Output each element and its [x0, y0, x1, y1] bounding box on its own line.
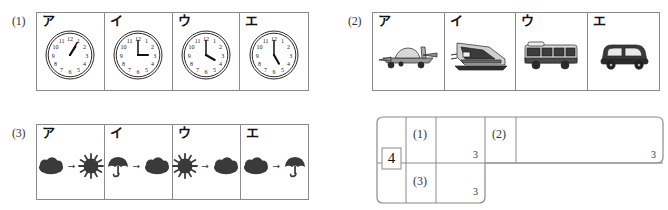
svg-text:9: 9	[188, 53, 191, 59]
choice-cell-q2-1[interactable]: ア	[373, 13, 445, 90]
svg-text:3: 3	[289, 53, 292, 59]
svg-text:10: 10	[121, 44, 127, 50]
sun-icon	[172, 153, 198, 179]
svg-text:3: 3	[221, 53, 224, 59]
clock-icon: 121234567891011	[109, 26, 167, 84]
weather-transition: →	[172, 153, 240, 179]
svg-text:10: 10	[53, 44, 59, 50]
svg-text:9: 9	[52, 53, 55, 59]
sun-icon	[78, 153, 104, 179]
question-number-box: 4	[382, 148, 401, 169]
svg-text:4: 4	[287, 61, 290, 67]
train-icon	[449, 35, 511, 79]
svg-text:1: 1	[145, 38, 148, 44]
clock-icon: 121234567891011	[41, 26, 99, 84]
answer-row-1-points: 3	[473, 149, 478, 160]
svg-text:6: 6	[69, 69, 72, 75]
choice-key-q2-1: ア	[378, 14, 391, 27]
clock-hour-hand	[274, 55, 279, 64]
question-3-choice-box: ア→イ→ウ→エ→	[36, 124, 309, 200]
cloud-icon	[143, 156, 171, 176]
svg-text:5: 5	[281, 67, 284, 73]
svg-text:10: 10	[257, 44, 263, 50]
svg-text:10: 10	[188, 44, 194, 50]
clock-face: 121234567891011	[245, 26, 303, 84]
svg-text:7: 7	[264, 67, 267, 73]
svg-text:6: 6	[273, 69, 276, 75]
svg-text:3: 3	[86, 53, 89, 59]
svg-text:11: 11	[127, 38, 133, 44]
arrow-icon: →	[133, 162, 141, 171]
answer-field-2[interactable]	[517, 118, 662, 162]
answer-row-3-label: (3)	[413, 174, 427, 189]
choice-cell-q3-3[interactable]: ウ→	[173, 125, 241, 199]
airplane-icon	[377, 38, 439, 72]
choice-key-q1-3: ウ	[178, 14, 191, 27]
svg-text:7: 7	[196, 67, 199, 73]
answer-row-3-points: 3	[473, 186, 478, 197]
svg-text:11: 11	[195, 38, 201, 44]
answer-row-1-label: (1)	[413, 127, 427, 142]
question-1-label: (1)	[12, 14, 25, 29]
arrow-icon: →	[273, 162, 281, 171]
svg-text:7: 7	[60, 67, 63, 73]
choice-cell-q3-2[interactable]: イ→	[105, 125, 172, 199]
choice-key-q2-4: エ	[593, 14, 606, 27]
question-3-label: (3)	[12, 126, 25, 141]
svg-text:8: 8	[190, 61, 193, 67]
choice-cell-q2-2[interactable]: イ	[445, 13, 517, 90]
car-icon	[592, 37, 654, 77]
choice-cell-q2-3[interactable]: ウ	[516, 13, 588, 90]
svg-text:2: 2	[83, 44, 86, 50]
arrow-icon: →	[201, 162, 209, 171]
weather-transition: →	[242, 154, 308, 178]
clock-hour-hand	[206, 55, 215, 60]
choice-key-q1-4: エ	[245, 14, 258, 27]
choice-key-q3-2: イ	[110, 126, 123, 139]
question-2-choice-box: アイウエ	[372, 12, 660, 91]
clock-face: 121234567891011	[177, 26, 235, 84]
choice-cell-q1-3[interactable]: ウ121234567891011	[173, 13, 241, 90]
svg-text:6: 6	[137, 69, 140, 75]
umbrella-icon	[106, 154, 130, 178]
clock-face: 121234567891011	[41, 26, 99, 84]
svg-text:4: 4	[151, 61, 154, 67]
svg-text:2: 2	[151, 44, 154, 50]
clock-face: 121234567891011	[109, 26, 167, 84]
choice-key-q1-1: ア	[42, 14, 55, 27]
svg-text:7: 7	[128, 67, 131, 73]
arrow-icon: →	[68, 162, 76, 171]
choice-cell-q1-1[interactable]: ア121234567891011	[37, 13, 105, 90]
choice-cell-q1-4[interactable]: エ121234567891011	[240, 13, 308, 90]
svg-text:8: 8	[122, 61, 125, 67]
choice-key-q3-1: ア	[42, 126, 55, 139]
svg-text:5: 5	[145, 67, 148, 73]
choice-cell-q2-4[interactable]: エ	[588, 13, 660, 90]
clock-hour-hand	[70, 47, 75, 55]
airplane-icon	[377, 38, 439, 76]
choice-cell-q3-1[interactable]: ア→	[37, 125, 105, 199]
svg-text:11: 11	[263, 38, 269, 44]
choice-key-q1-2: イ	[110, 14, 123, 27]
choice-cell-q1-2[interactable]: イ121234567891011	[105, 13, 173, 90]
svg-text:1: 1	[281, 38, 284, 44]
cloud-icon	[242, 156, 270, 176]
svg-text:2: 2	[219, 44, 222, 50]
answer-row-2-points: 3	[651, 149, 656, 160]
answer-table: 4 (1) (2) (3) 3 3 3	[376, 116, 664, 204]
choice-key-q2-2: イ	[450, 14, 463, 27]
svg-text:12: 12	[67, 36, 73, 42]
svg-text:3: 3	[153, 53, 156, 59]
answer-row-2-label: (2)	[492, 127, 506, 142]
svg-text:4: 4	[219, 61, 222, 67]
clock-icon: 121234567891011	[177, 26, 235, 84]
question-2-label: (2)	[348, 14, 361, 29]
clock-icon: 121234567891011	[245, 26, 303, 84]
svg-text:2: 2	[287, 44, 290, 50]
train-icon	[449, 35, 511, 75]
car-icon	[592, 37, 654, 73]
svg-text:11: 11	[59, 38, 65, 44]
cloud-icon	[37, 156, 65, 176]
bus-icon	[520, 38, 582, 76]
choice-cell-q3-4[interactable]: エ→	[241, 125, 308, 199]
